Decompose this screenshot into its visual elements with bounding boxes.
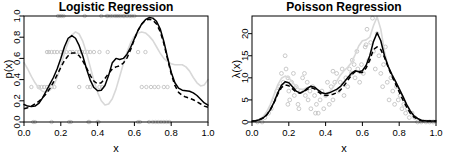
data-point: [365, 27, 369, 31]
x-axis-title: x: [341, 142, 347, 154]
data-point: [280, 72, 284, 76]
data-point: [78, 85, 81, 88]
data-point: [353, 76, 357, 80]
data-point: [407, 116, 411, 120]
y-axis-title: λ(x): [230, 60, 242, 78]
data-point: [292, 94, 296, 98]
data-point: [381, 85, 385, 89]
x-tick-label: 1.0: [429, 127, 442, 138]
data-point: [308, 89, 312, 93]
x-tick-label: 0.6: [128, 127, 141, 138]
data-point: [153, 85, 156, 88]
data-point: [296, 102, 300, 106]
data-point: [356, 67, 360, 71]
data-point: [315, 102, 319, 106]
data-point: [313, 94, 317, 98]
data-point: [136, 50, 139, 53]
data-point: [371, 16, 375, 20]
y-tick-label: 0.8: [11, 31, 22, 44]
x-axis-title: x: [113, 142, 119, 154]
data-point: [314, 111, 318, 115]
data-point: [396, 98, 400, 102]
data-point: [303, 94, 307, 98]
y-tick-label: 15: [239, 50, 250, 61]
data-point: [400, 107, 404, 111]
data-point: [286, 102, 290, 106]
data-point: [358, 80, 362, 84]
y-tick-label: 5: [239, 97, 250, 102]
data-point: [369, 41, 373, 45]
data-point: [342, 94, 346, 98]
data-point: [306, 98, 310, 102]
data-point: [288, 98, 292, 102]
data-point: [326, 80, 330, 84]
data-point: [305, 80, 309, 84]
data-point: [373, 67, 377, 71]
data-point: [303, 72, 307, 76]
data-point: [98, 50, 101, 53]
data-point: [145, 85, 148, 88]
data-point: [292, 72, 296, 76]
x-tick-label: 0.4: [91, 127, 104, 138]
y-tick-label: 20: [239, 28, 250, 39]
data-point: [379, 72, 383, 76]
panel-title: Poisson Regression: [286, 0, 401, 14]
data-point: [106, 50, 109, 53]
plot-frame: [24, 16, 208, 122]
data-points-group: [30, 14, 171, 123]
data-point: [297, 107, 301, 111]
panel-title: Logistic Regression: [59, 0, 174, 14]
data-point: [283, 54, 287, 58]
data-point: [352, 63, 356, 67]
y-tick-label: 0.2: [11, 94, 22, 107]
data-point: [377, 54, 381, 58]
panel-poisson-regression: Poisson Regression0.00.20.40.60.81.00510…: [228, 0, 456, 160]
data-point: [309, 107, 313, 111]
data-point: [301, 76, 305, 80]
data-point: [360, 63, 364, 67]
poisson-regression-chart: Poisson Regression0.00.20.40.60.81.00510…: [228, 0, 456, 160]
y-tick-label: 0.0: [11, 115, 22, 128]
data-point: [331, 69, 335, 73]
x-tick-label: 1.0: [201, 127, 214, 138]
data-point: [322, 107, 326, 111]
y-tick-label: 1.0: [11, 9, 22, 22]
data-point: [157, 85, 160, 88]
data-point: [393, 102, 397, 106]
data-point: [144, 50, 147, 53]
data-point: [327, 102, 331, 106]
data-point: [382, 63, 386, 67]
data-point: [338, 80, 342, 84]
data-point: [391, 89, 395, 93]
x-tick-label: 0.6: [356, 127, 369, 138]
data-point: [30, 85, 33, 88]
data-point: [331, 98, 335, 102]
x-tick-label: 0.8: [393, 127, 406, 138]
figure-container: Logistic Regression0.00.20.40.60.81.00.0…: [0, 0, 456, 160]
data-point: [385, 80, 389, 84]
y-tick-label: 0: [239, 119, 250, 124]
data-point: [92, 50, 95, 53]
left-chart-root: Logistic Regression0.00.20.40.60.81.00.0…: [2, 0, 215, 154]
data-point: [335, 72, 339, 76]
panel-logistic-regression: Logistic Regression0.00.20.40.60.81.00.0…: [0, 0, 228, 160]
x-tick-label: 0.4: [319, 127, 332, 138]
data-point: [346, 85, 350, 89]
data-point: [166, 85, 169, 88]
right-chart-root: Poisson Regression0.00.20.40.60.81.00510…: [230, 0, 443, 154]
logistic-regression-chart: Logistic Regression0.00.20.40.60.81.00.0…: [0, 0, 228, 160]
data-point: [140, 85, 143, 88]
data-point: [287, 89, 291, 93]
x-tick-label: 0.0: [245, 127, 258, 138]
data-point: [149, 85, 152, 88]
x-tick-label: 0.2: [282, 127, 295, 138]
data-point: [387, 98, 391, 102]
y-axis-title: p(x): [2, 60, 14, 79]
x-tick-label: 0.2: [54, 127, 67, 138]
data-point: [318, 98, 322, 102]
x-tick-label: 0.8: [165, 127, 178, 138]
data-point: [404, 111, 408, 115]
data-point: [162, 85, 165, 88]
data-point: [284, 67, 288, 71]
